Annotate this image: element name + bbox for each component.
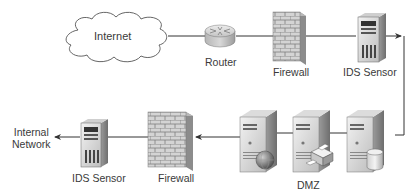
router-icon [205,25,235,47]
internal-network-label: Internal Network [12,126,51,150]
firewall-bottom-label: Firewall [158,172,194,184]
database-icon [367,149,383,170]
print-server-icon [293,110,333,172]
firewall-icon [273,12,306,65]
edge-ids-to-dmz-vertical [395,36,404,135]
router-label: Router [205,56,237,68]
internet-label: Internet [94,30,131,42]
network-diagram [0,0,420,196]
server-tower-icon [358,13,386,62]
firewall-icon [148,112,193,171]
database-server-icon [347,110,384,172]
globe-icon [256,151,274,169]
ids-sensor-top-label: IDS Sensor [343,66,397,78]
server-tower-icon [81,119,108,167]
web-server-icon [240,110,277,172]
dmz-label: DMZ [297,179,320,191]
ids-sensor-bottom-label: IDS Sensor [72,172,126,184]
firewall-top-label: Firewall [273,66,309,78]
